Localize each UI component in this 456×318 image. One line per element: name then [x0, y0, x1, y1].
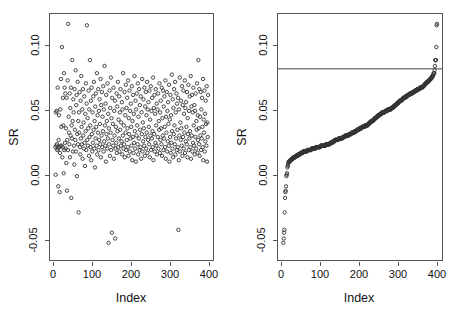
data-point	[121, 71, 124, 74]
data-point	[135, 92, 138, 95]
data-point	[181, 103, 184, 106]
data-point	[143, 105, 146, 108]
data-point	[175, 92, 178, 95]
xtick-label: 300	[389, 269, 407, 280]
data-point	[78, 90, 81, 93]
data-point	[284, 185, 287, 188]
data-point	[83, 95, 86, 98]
data-point	[114, 125, 117, 128]
xtick-label: 300	[161, 269, 179, 280]
scatter-points-left	[49, 13, 214, 261]
data-point	[180, 85, 183, 88]
data-point	[124, 131, 127, 134]
ytick-label: 0.00	[258, 164, 269, 185]
data-point	[153, 112, 156, 115]
data-point	[57, 185, 60, 188]
data-point	[103, 140, 106, 143]
data-point	[62, 71, 65, 74]
panel-unsorted-scatter: 0.10 0.05 0.00 -0.05 0 100 200 300 400 I…	[0, 0, 228, 318]
data-point	[131, 93, 134, 96]
data-point	[169, 151, 172, 154]
data-point	[156, 135, 159, 138]
data-point	[110, 116, 113, 119]
data-point	[84, 112, 87, 115]
data-point	[161, 116, 164, 119]
data-point	[69, 106, 72, 109]
data-point	[144, 135, 147, 138]
data-point	[86, 116, 89, 119]
data-point	[79, 153, 82, 156]
data-point	[166, 100, 169, 103]
data-point	[139, 157, 142, 160]
data-point	[88, 108, 91, 111]
data-point	[178, 134, 181, 137]
data-point	[68, 156, 71, 159]
data-point	[139, 95, 142, 98]
data-point	[172, 87, 175, 90]
data-point	[80, 125, 83, 128]
data-point	[202, 131, 205, 134]
data-point	[75, 103, 78, 106]
data-point	[181, 135, 184, 138]
data-point	[89, 99, 92, 102]
data-point	[73, 163, 76, 166]
data-point	[133, 130, 136, 133]
data-point	[64, 127, 67, 130]
xtick-label: 100	[311, 269, 329, 280]
data-point	[131, 119, 134, 122]
data-point	[135, 124, 138, 127]
data-point	[163, 145, 166, 148]
data-point	[168, 135, 171, 138]
x-axis-title: Index	[344, 292, 375, 305]
data-point	[126, 79, 129, 82]
data-point	[73, 128, 76, 131]
data-point	[164, 79, 167, 82]
ytick-label: 0.10	[258, 34, 269, 55]
data-point	[153, 93, 156, 96]
data-point	[433, 64, 436, 67]
data-point	[80, 74, 83, 77]
data-point	[122, 143, 125, 146]
data-point	[160, 154, 163, 157]
data-point	[108, 154, 111, 157]
data-point	[111, 138, 114, 141]
data-point	[99, 77, 102, 80]
ytick-label: 0.00	[30, 164, 41, 185]
ytick-label: 0.05	[30, 99, 41, 120]
data-point	[165, 150, 168, 153]
data-point	[97, 109, 100, 112]
xtick-mark	[398, 262, 399, 266]
data-point	[133, 74, 136, 77]
ytick-mark	[45, 110, 49, 111]
data-point	[170, 141, 173, 144]
data-point	[160, 143, 163, 146]
data-point	[85, 24, 88, 27]
data-point	[145, 80, 148, 83]
data-point	[99, 156, 102, 159]
data-point	[132, 112, 135, 115]
data-point	[137, 87, 140, 90]
data-point	[107, 112, 110, 115]
data-point	[117, 95, 120, 98]
data-point	[94, 92, 97, 95]
data-point	[125, 106, 128, 109]
data-point	[189, 145, 192, 148]
data-point	[72, 144, 75, 147]
data-point	[107, 241, 110, 244]
xtick-label: 100	[83, 269, 101, 280]
data-point	[192, 86, 195, 89]
data-point	[104, 102, 107, 105]
data-point	[71, 58, 74, 61]
data-point	[85, 102, 88, 105]
data-point	[109, 76, 112, 79]
data-point	[116, 105, 119, 108]
data-point	[93, 166, 96, 169]
data-point	[154, 87, 157, 90]
data-point	[74, 69, 77, 72]
ytick-mark	[273, 45, 277, 46]
data-point	[76, 80, 79, 83]
data-point	[206, 135, 209, 138]
data-point	[82, 134, 85, 137]
data-point	[103, 64, 106, 67]
ytick-label: -0.05	[256, 227, 267, 252]
